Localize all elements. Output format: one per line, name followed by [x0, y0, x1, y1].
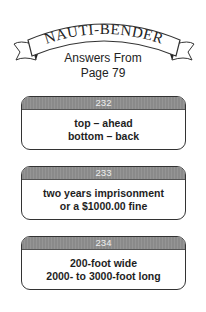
card-number: 234 [22, 237, 185, 250]
answer-card-232: 232 top – ahead bottom – back [21, 96, 186, 150]
answer-line: top – ahead [22, 117, 185, 130]
answer-line: bottom – back [22, 130, 185, 143]
answer-line: or a $1000.00 fine [22, 200, 185, 213]
answer-line: two years imprisonment [22, 187, 185, 200]
answer-line: 200-foot wide [22, 257, 185, 270]
answer-card-233: 233 two years imprisonment or a $1000.00… [21, 166, 186, 220]
card-answer: top – ahead bottom – back [22, 110, 185, 143]
subtitle-page-number: Page 79 [0, 66, 206, 80]
card-answer: two years imprisonment or a $1000.00 fin… [22, 180, 185, 213]
card-answer: 200-foot wide 2000- to 3000-foot long [22, 250, 185, 283]
card-number: 232 [22, 97, 185, 110]
card-number: 233 [22, 167, 185, 180]
answer-card-234: 234 200-foot wide 2000- to 3000-foot lon… [21, 236, 186, 290]
subtitle-answers-from: Answers From [0, 51, 206, 65]
answer-line: 2000- to 3000-foot long [22, 270, 185, 283]
